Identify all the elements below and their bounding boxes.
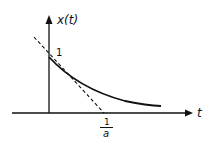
y-intercept-label: 1 xyxy=(56,47,62,58)
x-axis-label: t xyxy=(197,106,203,120)
x-intercept-numerator: 1 xyxy=(104,117,110,127)
decay-curve xyxy=(49,57,161,106)
y-axis-label: x(t) xyxy=(56,13,78,27)
y-axis-arrow-icon xyxy=(46,15,53,24)
decay-figure: x(t) t 1 1 a xyxy=(0,0,213,144)
x-axis-arrow-icon xyxy=(185,110,193,117)
x-intercept-denominator: a xyxy=(103,128,109,139)
